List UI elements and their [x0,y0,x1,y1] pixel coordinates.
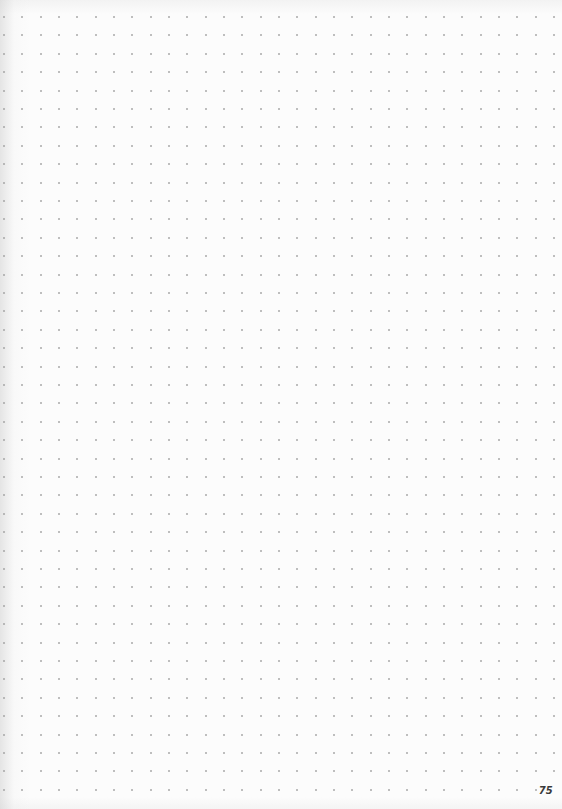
grid-dot [95,366,97,368]
grid-dot [168,71,170,73]
grid-dot [296,108,298,110]
grid-dot [241,310,243,312]
grid-dot [186,34,188,36]
grid-dot [150,531,152,533]
grid-dot [113,182,115,184]
grid-dot [168,421,170,423]
grid-dot [406,53,408,55]
grid-dot [241,108,243,110]
grid-dot [223,550,225,552]
grid-dot [58,163,60,165]
grid-dot [168,34,170,36]
grid-dot [150,126,152,128]
grid-dot [40,715,42,717]
grid-dot [186,623,188,625]
grid-dot [516,292,518,294]
grid-dot [168,642,170,644]
grid-dot [443,108,445,110]
grid-dot [315,770,317,772]
grid-dot [241,90,243,92]
grid-dot [58,789,60,791]
grid-dot [535,660,537,662]
grid-dot [278,531,280,533]
grid-dot [223,329,225,331]
grid-dot [443,218,445,220]
grid-dot [480,34,482,36]
grid-dot [76,715,78,717]
grid-dot [553,71,555,73]
grid-dot [76,126,78,128]
grid-dot [186,770,188,772]
grid-dot [186,274,188,276]
grid-dot [76,255,78,257]
grid-dot [315,789,317,791]
grid-dot [58,421,60,423]
grid-dot [76,421,78,423]
grid-dot [3,439,5,441]
grid-dot [278,605,280,607]
grid-dot [535,16,537,18]
grid-dot [516,678,518,680]
grid-dot [443,697,445,699]
grid-dot [296,678,298,680]
grid-dot [296,366,298,368]
grid-dot [3,90,5,92]
grid-dot [76,90,78,92]
grid-dot [278,90,280,92]
grid-dot [278,494,280,496]
grid-dot [21,34,23,36]
grid-dot [131,384,133,386]
grid-dot [351,384,353,386]
grid-dot [40,660,42,662]
grid-dot [76,34,78,36]
grid-dot [186,329,188,331]
grid-dot [95,90,97,92]
grid-dot [113,402,115,404]
grid-dot [3,218,5,220]
grid-dot [553,623,555,625]
grid-dot [131,458,133,460]
grid-dot [241,53,243,55]
grid-dot [296,200,298,202]
grid-dot [296,53,298,55]
grid-dot [388,71,390,73]
grid-dot [278,34,280,36]
grid-dot [21,494,23,496]
grid-dot [406,531,408,533]
grid-dot [443,494,445,496]
grid-dot [113,274,115,276]
grid-dot [425,458,427,460]
grid-dot [150,623,152,625]
grid-dot [3,660,5,662]
grid-dot [278,274,280,276]
grid-dot [278,71,280,73]
grid-dot [241,623,243,625]
grid-dot [241,366,243,368]
grid-dot [480,770,482,772]
grid-dot [315,255,317,257]
grid-dot [516,347,518,349]
grid-dot [241,71,243,73]
grid-dot [406,439,408,441]
grid-dot [76,531,78,533]
grid-dot [333,568,335,570]
grid-dot [95,145,97,147]
grid-dot [296,34,298,36]
grid-dot [498,421,500,423]
grid-dot [443,274,445,276]
grid-dot [168,550,170,552]
grid-dot [333,421,335,423]
grid-dot [241,182,243,184]
grid-dot [461,513,463,515]
grid-dot [241,458,243,460]
grid-dot [186,53,188,55]
grid-dot [498,660,500,662]
grid-dot [205,366,207,368]
grid-dot [95,71,97,73]
grid-dot [131,770,133,772]
grid-dot [443,568,445,570]
grid-dot [388,16,390,18]
grid-dot [425,292,427,294]
grid-dot [370,605,372,607]
grid-dot [223,292,225,294]
